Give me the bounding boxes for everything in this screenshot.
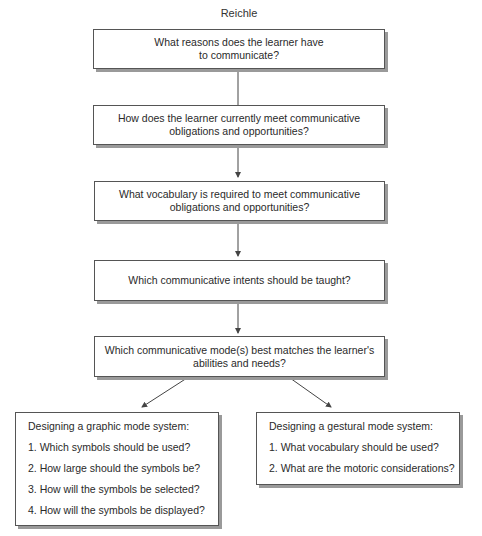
graphic-mode-item: 2. How large should the symbols be?: [28, 462, 206, 475]
gestural-mode-heading: Designing a gestural mode system:: [269, 420, 447, 433]
flow-box-text: obligations and opportunities?: [118, 125, 360, 138]
graphic-mode-box: Designing a graphic mode system: 1. Whic…: [15, 412, 219, 526]
gestural-mode-item: 2. What are the motoric considerations?: [269, 462, 447, 475]
flow-box-text: Which communicative mode(s) best matches…: [105, 344, 374, 357]
arrow-5-right: [290, 378, 331, 407]
flow-box-text: What reasons does the learner have: [154, 36, 323, 49]
graphic-mode-item: 4. How will the symbols be displayed?: [28, 504, 206, 517]
graphic-mode-heading: Designing a graphic mode system:: [28, 420, 206, 433]
graphic-mode-item: 3. How will the symbols be selected?: [28, 483, 206, 496]
flow-box-vocabulary: What vocabulary is required to meet comm…: [94, 181, 385, 221]
flow-box-mode: Which communicative mode(s) best matches…: [94, 336, 385, 377]
flow-box-text: How does the learner currently meet comm…: [118, 112, 360, 125]
flow-box-text: to communicate?: [154, 49, 323, 62]
flow-box-current: How does the learner currently meet comm…: [93, 105, 385, 145]
flow-box-text: Which communicative intents should be ta…: [128, 274, 350, 287]
gestural-mode-box: Designing a gestural mode system: 1. Wha…: [256, 412, 460, 485]
gestural-mode-item: 1. What vocabulary should be used?: [269, 441, 447, 454]
flow-box-text: abilities and needs?: [105, 357, 374, 370]
flow-box-text: What vocabulary is required to meet comm…: [119, 188, 360, 201]
flow-box-reasons: What reasons does the learner have to co…: [93, 29, 385, 69]
arrow-5-left: [142, 378, 187, 407]
flow-box-text: obligations and opportunities?: [119, 201, 360, 214]
flow-box-intents: Which communicative intents should be ta…: [94, 260, 385, 301]
graphic-mode-item: 1. Which symbols should be used?: [28, 441, 206, 454]
